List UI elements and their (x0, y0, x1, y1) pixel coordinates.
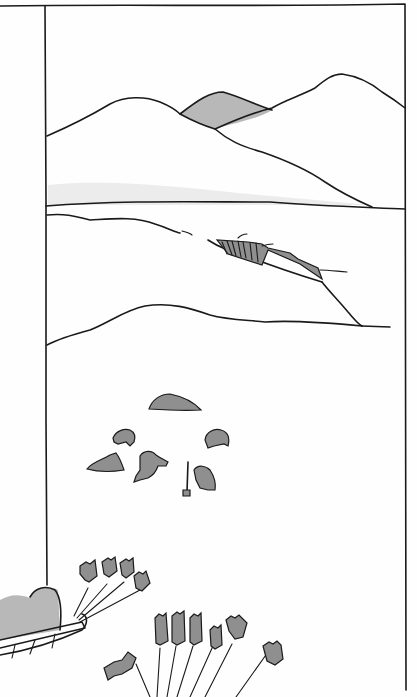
arctic-scene-illustration (0, 0, 417, 697)
sea-ice (47, 215, 390, 345)
illustration-canvas: Pencil and ink illustration of an arctic… (0, 0, 417, 697)
ice-crack (217, 234, 347, 279)
digging-figure (183, 462, 215, 496)
sled (0, 587, 87, 658)
dog-team (74, 557, 283, 697)
bear-right (205, 429, 229, 448)
running-figure (134, 451, 168, 482)
bear-left (113, 429, 135, 446)
rock (149, 394, 201, 410)
snow-block-figure (87, 453, 124, 471)
